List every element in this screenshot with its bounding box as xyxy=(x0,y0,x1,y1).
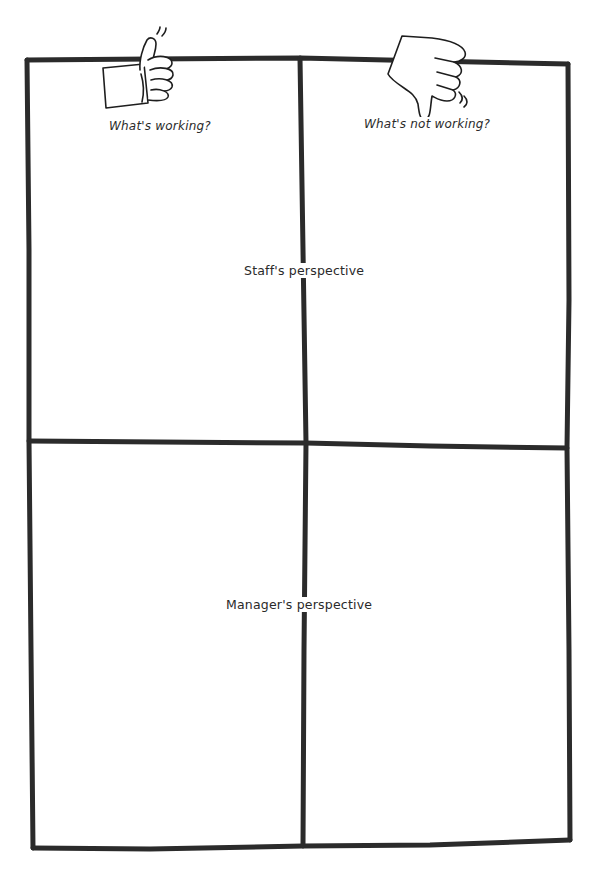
quadrant-staff-not-working xyxy=(306,64,566,441)
quadrant-manager-not-working xyxy=(308,450,566,842)
quadrant-staff-working xyxy=(30,62,298,439)
quadrant-manager-working xyxy=(32,446,302,844)
frame-right-border xyxy=(567,64,570,840)
matrix-diagram: What's working? What's not working? Staf… xyxy=(0,0,592,875)
